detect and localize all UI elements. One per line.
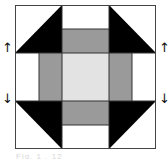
center-square-light [62, 53, 109, 101]
figure-caption: Fig. 1 . 12 [16, 152, 63, 159]
quilt-block-diagram [0, 0, 168, 159]
arrow-up-icon-left: ↑ [2, 41, 13, 54]
strip-top-center-medium [62, 29, 109, 53]
arrow-down-icon-left: ↓ [2, 92, 13, 105]
strip-middle-right-medium [109, 53, 132, 101]
strip-middle-left-medium [39, 53, 62, 101]
arrow-up-icon-right: ↑ [159, 41, 168, 54]
strip-bottom-center-medium [62, 101, 109, 125]
arrow-down-icon-right: ↓ [159, 92, 168, 105]
